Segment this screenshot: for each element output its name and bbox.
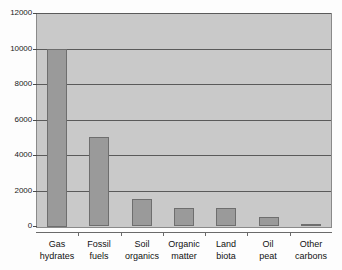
x-axis-tick-label-line: Fossil — [78, 238, 120, 250]
x-axis-tick-label: Landbiota — [205, 238, 247, 262]
x-axis: GashydratesFossilfuelsSoilorganicsOrgani… — [36, 238, 332, 270]
x-axis-tick-label: Oilpeat — [247, 238, 289, 262]
x-axis-tick-label-line: organics — [121, 250, 163, 262]
x-axis-tick-label-line: matter — [163, 250, 205, 262]
bar — [132, 199, 152, 226]
x-axis-tick-mark — [247, 232, 248, 236]
x-axis-tick-label-line: hydrates — [36, 250, 78, 262]
bar — [216, 208, 236, 226]
x-axis-tick-mark — [121, 232, 122, 236]
bar — [259, 217, 279, 226]
x-axis-tick-label-line: Gas — [36, 238, 78, 250]
x-axis-tick-mark — [290, 232, 291, 236]
bars-layer — [0, 0, 342, 270]
x-axis-tick-label-line: carbons — [290, 250, 332, 262]
bar — [47, 49, 67, 227]
x-axis-tick-label-line: biota — [205, 250, 247, 262]
bar — [89, 137, 109, 226]
bar-chart: 020004000600080001000012000 GashydratesF… — [0, 0, 342, 270]
x-axis-tick-mark — [163, 232, 164, 236]
bar — [174, 208, 194, 226]
x-axis-line — [36, 232, 332, 233]
x-axis-tick-mark — [78, 232, 79, 236]
x-axis-tick-label-line: Other — [290, 238, 332, 250]
x-axis-tick-label-line: peat — [247, 250, 289, 262]
x-axis-tick-label-line: fuels — [78, 250, 120, 262]
x-axis-tick-label-line: Soil — [121, 238, 163, 250]
x-axis-tick-label-line: Oil — [247, 238, 289, 250]
x-axis-tick-label: Soilorganics — [121, 238, 163, 262]
x-axis-tick-label: Organicmatter — [163, 238, 205, 262]
x-axis-tick-label: Gashydrates — [36, 238, 78, 262]
x-axis-tick-label: Fossilfuels — [78, 238, 120, 262]
x-axis-tick-label: Othercarbons — [290, 238, 332, 262]
x-axis-tick-label-line: Organic — [163, 238, 205, 250]
bar — [301, 224, 321, 226]
x-axis-tick-label-line: Land — [205, 238, 247, 250]
x-axis-tick-mark — [205, 232, 206, 236]
